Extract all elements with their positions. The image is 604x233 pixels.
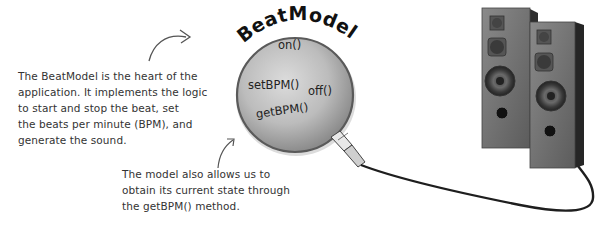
- annotation-left: The BeatModel is the heart of the applic…: [18, 68, 207, 148]
- annotation-bottom-line: the getBPM() method.: [122, 198, 290, 214]
- curved-arrow-up-icon: [218, 139, 234, 168]
- annotation-left-line: to start and stop the beat, set: [18, 100, 207, 116]
- audio-cable: [361, 165, 593, 211]
- annotation-bottom-line: obtain its current state through: [122, 182, 290, 198]
- method-setbpm: setBPM(): [248, 78, 299, 92]
- annotation-left-line: generate the sound.: [18, 132, 207, 148]
- annotation-left-line: application. It implements the logic: [18, 84, 207, 100]
- annotation-bottom-line: The model also allows us to: [122, 166, 290, 182]
- audio-plug-icon: [331, 131, 365, 167]
- annotation-bottom: The model also allows us to obtain its c…: [122, 166, 290, 214]
- annotation-left-line: The BeatModel is the heart of the: [18, 68, 207, 84]
- method-on: on(): [278, 38, 301, 52]
- method-off: off(): [308, 84, 332, 98]
- curved-arrow-right-icon: [149, 30, 190, 61]
- speaker-right-icon: [530, 22, 584, 168]
- speaker-left-icon: [482, 8, 538, 148]
- annotation-left-line: the beats per minute (BPM), and: [18, 116, 207, 132]
